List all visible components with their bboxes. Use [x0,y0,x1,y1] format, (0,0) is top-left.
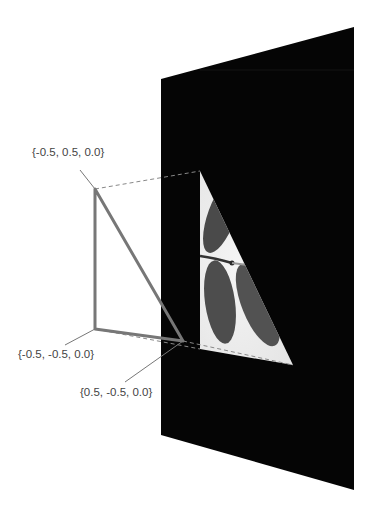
vertex-label-bottom-right: {0.5, -0.5, 0.0} [80,386,152,398]
vertex-label-top: {-0.5, 0.5, 0.0} [32,146,104,158]
projection-panel [161,27,354,490]
diagram-canvas [0,0,372,512]
vertex-label-bottom-left: {-0.5, -0.5, 0.0} [18,348,94,360]
